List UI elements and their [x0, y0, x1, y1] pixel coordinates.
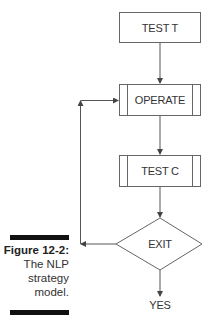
node-exit-label: EXIT	[148, 238, 172, 250]
node-test-t-label: TEST T	[142, 22, 179, 34]
caption-line-1: The NLP	[4, 257, 69, 271]
node-test-c: TEST C	[120, 156, 201, 187]
figure-number: Figure 12-2:	[4, 243, 69, 257]
edge-exit-to-operate-feedback	[81, 101, 119, 245]
node-test-c-label: TEST C	[141, 165, 179, 177]
caption-line-3: model.	[4, 285, 69, 299]
caption-line-2: strategy	[4, 271, 69, 285]
figure-caption: Figure 12-2: The NLP strategy model.	[4, 243, 69, 299]
caption-top-bar	[10, 235, 69, 240]
node-exit: EXIT	[116, 218, 202, 270]
node-operate-label: OPERATE	[135, 94, 185, 106]
node-yes-label: YES	[149, 299, 170, 311]
node-test-t: TEST T	[120, 13, 201, 43]
node-operate: OPERATE	[120, 85, 201, 116]
caption-bottom-bar	[10, 310, 69, 315]
